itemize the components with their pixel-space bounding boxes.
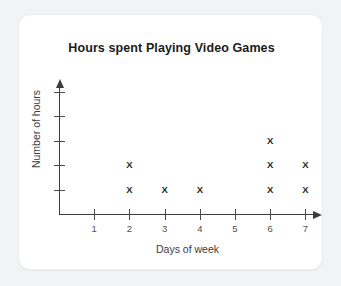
x-axis-arrow-icon (313, 211, 322, 219)
x-axis-tick-label: 2 (118, 223, 140, 234)
x-axis-tick (94, 209, 95, 220)
y-axis-tick (54, 165, 65, 166)
y-axis-tick (54, 116, 65, 117)
y-axis-line (59, 87, 60, 215)
y-axis-tick (54, 92, 65, 93)
x-axis-tick-label: 7 (294, 223, 316, 234)
plot-area: 1234567 XXXXXXXXX Number of hours Days o… (19, 15, 324, 271)
data-point-marker: X (192, 185, 208, 195)
x-axis-tick-label: 3 (154, 223, 176, 234)
x-axis-tick (270, 209, 271, 220)
x-axis-tick (129, 209, 130, 220)
data-point-marker: X (297, 160, 313, 170)
x-axis-tick-label: 1 (83, 223, 105, 234)
data-point-marker: X (262, 185, 278, 195)
y-axis-tick (54, 190, 65, 191)
data-point-marker: X (157, 185, 173, 195)
x-axis-tick (165, 209, 166, 220)
data-point-marker: X (121, 185, 137, 195)
x-axis-tick (235, 209, 236, 220)
data-point-marker: X (262, 160, 278, 170)
y-axis-arrow-icon (56, 79, 64, 88)
y-axis-label: Number of hours (30, 79, 42, 179)
screenshot-root: Hours spent Playing Video Games 1234567 … (0, 0, 341, 286)
x-axis-tick (200, 209, 201, 220)
x-axis-tick (305, 209, 306, 220)
x-axis-tick-label: 4 (189, 223, 211, 234)
x-axis-tick-label: 6 (259, 223, 281, 234)
x-axis-line (59, 214, 316, 215)
x-axis-label: Days of week (59, 243, 316, 255)
data-point-marker: X (297, 185, 313, 195)
data-point-marker: X (262, 136, 278, 146)
data-point-marker: X (121, 160, 137, 170)
x-axis-tick-label: 5 (224, 223, 246, 234)
y-axis-tick (54, 141, 65, 142)
chart-card: Hours spent Playing Video Games 1234567 … (18, 14, 323, 270)
